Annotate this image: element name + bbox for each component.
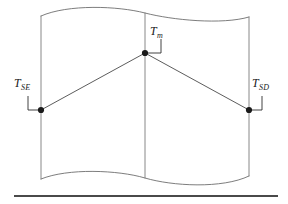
label-t-sd-base: T: [252, 76, 259, 90]
figure-container: TSE Tm TSD: [0, 0, 288, 204]
label-t-m-base: T: [150, 24, 157, 38]
label-t-se: TSE: [14, 77, 30, 89]
node-marker-t-m: [142, 50, 148, 56]
node-marker-t-sd: [246, 107, 252, 113]
label-t-sd-subscript: SD: [259, 83, 269, 92]
leader-line-t-m: [145, 39, 161, 53]
diagram-canvas: [0, 0, 288, 204]
label-t-sd: TSD: [252, 77, 269, 89]
node-marker-t-se: [38, 107, 44, 113]
label-t-m-subscript: m: [157, 31, 163, 40]
label-t-se-base: T: [14, 76, 21, 90]
label-t-se-subscript: SE: [21, 83, 30, 92]
label-t-m: Tm: [150, 25, 163, 37]
